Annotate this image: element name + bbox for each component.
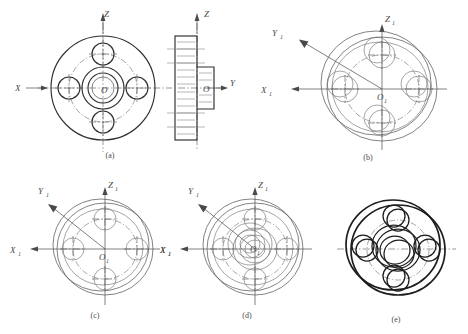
panel-c-axis-label-z: Z	[108, 180, 114, 190]
axis-x-arrow	[26, 86, 48, 91]
panel-d-axis-label-x-sub: 1	[168, 251, 171, 257]
panel-c-axis-label-z-sub: 1	[115, 186, 118, 192]
panel-e: (e)	[337, 200, 456, 324]
axis-label-z-side: Z	[204, 9, 210, 19]
origin-label-o: O	[101, 85, 108, 95]
bolt-hole-top-rear	[383, 205, 405, 227]
panel-c-axis-y	[52, 207, 105, 249]
bolt-hole-left	[356, 239, 378, 261]
panel-c-axis-label-y-sub: 1	[46, 192, 49, 198]
panel-a: X Z Y O O Z (a)	[14, 9, 236, 160]
panel-b-axis-label-z: Z	[385, 14, 391, 24]
panel-b-disc-edge	[332, 42, 428, 132]
panel-b-axis-label-y-sub: 1	[280, 34, 283, 40]
panel-caption-c: (c)	[91, 311, 100, 320]
panel-caption-e: (e)	[392, 315, 401, 324]
panel-caption-a: (a)	[106, 151, 115, 160]
panel-b-origin-label: O	[377, 92, 384, 102]
bolt-hole-right-rear	[401, 71, 427, 97]
panel-c-origin-label: O	[99, 252, 106, 262]
panel-c-origin-label-sub: 1	[106, 258, 109, 264]
technical-drawing-sheet: X Z Y O O Z (a)	[0, 0, 468, 334]
panel-b-axis-label-z-sub: 1	[392, 20, 395, 26]
bolt-hole-right-rear	[414, 235, 436, 257]
panel-b: X 1 Y 1 Z 1 O 1 (b)	[260, 14, 447, 162]
bolt-hole-left-rear	[327, 71, 353, 97]
panel-c-axis-label-x: X	[9, 245, 16, 255]
bolt-hole-bottom-rear	[383, 265, 405, 287]
panel-b-axis-label-x-sub: 1	[269, 91, 272, 97]
panel-d-axis-label-y: Y	[188, 186, 194, 196]
panel-b-axis-label-x: X	[260, 85, 267, 95]
origin-label-o-side: O	[203, 84, 210, 94]
panel-d-axis-label-x: X	[159, 245, 166, 255]
projection-ticks	[167, 49, 205, 127]
axis-y-arrow	[207, 86, 228, 91]
panel-b-origin-label-sub: 1	[384, 98, 387, 104]
panel-d-origin-label: O	[250, 244, 257, 254]
panel-d-axis-label-y-sub: 1	[196, 192, 199, 198]
bolt-hole-bottom-rear	[364, 105, 390, 131]
panel-d-axis-y	[202, 207, 255, 249]
axis-label-y: Y	[230, 78, 236, 88]
panel-e-front-disc	[351, 205, 445, 295]
panel-d-axis-label-z-sub: 1	[265, 186, 268, 192]
axis-label-z: Z	[104, 9, 110, 19]
bolt-hole-left-rear	[352, 235, 374, 257]
panel-a-side-view	[167, 13, 228, 150]
panel-caption-d: (d)	[242, 311, 252, 320]
panel-d-origin-label-sub: 1	[257, 250, 260, 256]
bolt-hole-top-rear	[364, 37, 390, 63]
panel-c-axis-label-x-sub: 1	[18, 251, 21, 257]
panel-d: X 1 Y 1 Z 1 O 1 (d)	[159, 180, 312, 320]
panel-c-axis-label-y: Y	[38, 186, 44, 196]
panel-d-axis-label-z: Z	[258, 180, 264, 190]
axis-label-x: X	[14, 83, 21, 93]
panel-c: X 1 X 1 Y 1 Z 1 O 1 (c)	[9, 180, 171, 320]
panel-caption-b: (b)	[363, 153, 373, 162]
axis-z-side-arrow	[195, 13, 200, 34]
panel-b-axis-label-y: Y	[272, 28, 278, 38]
